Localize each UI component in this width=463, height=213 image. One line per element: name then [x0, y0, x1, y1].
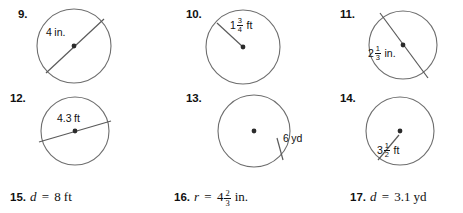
center-point	[401, 43, 406, 48]
measure-unit: ft	[247, 20, 253, 31]
problem-number: 15.	[10, 191, 26, 203]
text-problem: 15.d = 8ft	[10, 189, 72, 205]
measure-label: 6yd	[283, 132, 302, 143]
equation-variable: d	[30, 189, 37, 204]
measure-value: 4in.	[46, 27, 65, 38]
fraction-denominator: 3	[224, 198, 230, 208]
measure-whole-number: 2	[368, 48, 374, 59]
equation-variable: r	[194, 189, 199, 204]
equation-value: 4	[217, 189, 224, 204]
fraction-numerator: 3	[237, 17, 243, 25]
problem-number: 10.	[186, 8, 201, 20]
equation-unit: in.	[235, 189, 248, 204]
measure-whole-number: 3	[377, 145, 383, 156]
measure-value: 213in.	[368, 45, 396, 62]
measure-label: 213in.	[368, 45, 396, 62]
measure-label: 4.3ft	[57, 112, 80, 123]
measure-label: 4in.	[46, 26, 65, 37]
equation: d = 8ft	[30, 189, 72, 204]
measure-label: 312ft	[377, 142, 399, 159]
equation-variable: d	[370, 189, 377, 204]
equals-sign: =	[39, 189, 53, 204]
equation-value: 8	[54, 189, 61, 204]
equation: r = 423in.	[194, 189, 248, 204]
fraction: 13	[375, 45, 381, 62]
problem-number: 17.	[350, 191, 366, 203]
fraction: 23	[224, 189, 230, 208]
text-problem: 17.d = 3.1yd	[350, 189, 427, 205]
equation-value: 3.1	[394, 189, 410, 204]
fraction-numerator: 2	[224, 189, 230, 198]
fraction: 34	[237, 17, 243, 34]
measure-whole-number: 4.3	[57, 113, 72, 124]
fraction-denominator: 4	[237, 25, 243, 34]
problem-number: 13.	[186, 92, 201, 104]
equation: d = 3.1yd	[370, 189, 427, 204]
measure-value: 4.3ft	[57, 113, 80, 124]
measure-unit: yd	[291, 133, 302, 144]
measure-value: 134ft	[230, 17, 252, 34]
fraction: 12	[384, 142, 390, 159]
measure-value: 6yd	[283, 133, 302, 144]
equals-sign: =	[379, 189, 393, 204]
center-point	[73, 129, 78, 134]
text-problem: 16.r = 423in.	[174, 189, 248, 208]
problem-number: 12.	[10, 92, 25, 104]
measure-value: 312ft	[377, 142, 399, 159]
measure-whole-number: 4	[46, 27, 52, 38]
measure-unit: ft	[74, 113, 80, 124]
measure-unit: in.	[385, 48, 396, 59]
center-point	[252, 129, 257, 134]
measure-whole-number: 6	[283, 133, 289, 144]
problem-number: 16.	[174, 191, 190, 203]
equals-sign: =	[201, 189, 215, 204]
center-point	[72, 44, 77, 49]
fraction-denominator: 2	[384, 150, 390, 159]
problem-number: 11.	[340, 8, 355, 20]
problem-number: 9.	[18, 8, 27, 20]
fraction-numerator: 1	[384, 142, 390, 150]
center-point	[241, 45, 246, 50]
measure-label: 134ft	[230, 17, 252, 34]
measure-unit: ft	[394, 145, 400, 156]
worksheet-page: 9.4in.10.134ft11.213in.12.4.3ft13.6yd14.…	[0, 0, 463, 213]
equation-unit: ft	[64, 189, 72, 204]
measure-unit: in.	[54, 27, 65, 38]
measure-whole-number: 1	[230, 20, 236, 31]
equation-unit: yd	[414, 189, 427, 204]
center-point	[398, 129, 403, 134]
fraction-numerator: 1	[375, 45, 381, 53]
problem-number: 14.	[340, 92, 355, 104]
fraction-denominator: 3	[375, 53, 381, 62]
